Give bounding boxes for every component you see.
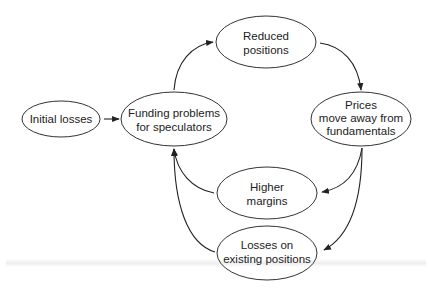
- node-label-line1: Higher: [250, 181, 284, 193]
- node-label-line1: Losses on: [241, 239, 293, 251]
- node-funding-problems: Funding problems for speculators: [121, 92, 227, 146]
- node-label: Initial losses: [30, 113, 93, 125]
- node-label-line1: Funding problems: [128, 107, 220, 119]
- node-label-line1: Prices: [345, 99, 377, 111]
- node-label-line2: existing positions: [223, 253, 311, 265]
- node-label-line2: positions: [243, 44, 289, 56]
- arrow-prices-to-losses: [324, 148, 362, 250]
- arrow-funding-to-reduced: [174, 42, 213, 90]
- arrow-margins-to-funding: [174, 149, 214, 193]
- feedback-loop-diagram: Initial losses Funding problems for spec…: [0, 0, 429, 292]
- node-label-line2: for speculators: [136, 121, 212, 133]
- node-prices-move-away: Prices move away from fundamentals: [311, 92, 411, 146]
- node-higher-margins: Higher margins: [217, 167, 317, 219]
- arrow-reduced-to-prices: [320, 43, 361, 90]
- node-initial-losses: Initial losses: [22, 101, 100, 137]
- node-label-line3: fundamentals: [326, 125, 395, 137]
- node-reduced-positions: Reduced positions: [216, 16, 316, 68]
- arrow-prices-to-margins: [322, 148, 362, 192]
- node-label-line1: Reduced: [243, 30, 289, 42]
- arrow-losses-to-funding: [174, 149, 215, 252]
- node-losses-existing-positions: Losses on existing positions: [217, 226, 317, 280]
- node-label-line2: margins: [247, 195, 288, 207]
- node-label-line2: move away from: [319, 112, 403, 124]
